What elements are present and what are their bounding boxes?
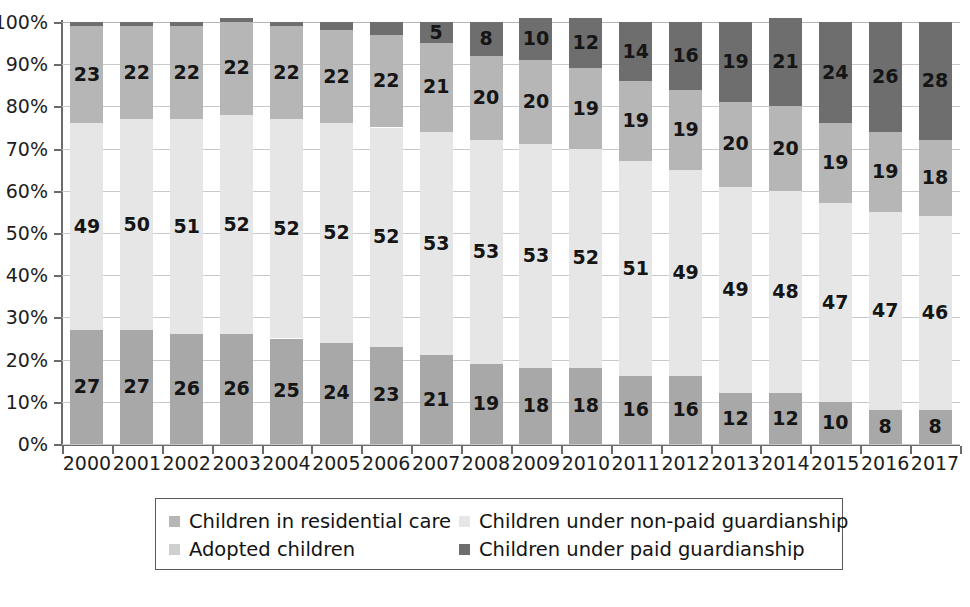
bar-stack-2014[interactable]: 12482021 — [769, 22, 802, 444]
bar-stack-2002[interactable]: 265122 — [170, 22, 203, 444]
legend-swatch-icon — [169, 516, 180, 527]
y-axis-label: 40% — [0, 266, 48, 285]
legend-item-3[interactable]: Children under paid guardianship — [459, 539, 829, 560]
bar-value-label: 22 — [320, 67, 353, 86]
bar-segment[interactable] — [270, 22, 303, 26]
bar-value-label: 8 — [919, 417, 952, 436]
y-axis-label: 70% — [0, 140, 48, 159]
gridline-0 — [62, 444, 960, 445]
bar-value-label: 20 — [769, 139, 802, 158]
x-axis-label-2004: 2004 — [259, 452, 315, 474]
bar-value-label: 18 — [919, 168, 952, 187]
bar-value-label: 49 — [719, 280, 752, 299]
y-tick-mark — [54, 64, 62, 66]
y-tick-mark — [54, 191, 62, 193]
bar-value-label: 20 — [719, 134, 752, 153]
bar-value-label: 21 — [420, 390, 453, 409]
x-axis-label-2016: 2016 — [857, 452, 913, 474]
bar-value-label: 53 — [470, 242, 503, 261]
bar-stack-2011[interactable]: 16511914 — [619, 22, 652, 444]
bar-value-label: 51 — [170, 217, 203, 236]
legend-item-2[interactable]: Adopted children — [169, 539, 459, 560]
bar-value-label: 16 — [669, 400, 702, 419]
bar-value-label: 28 — [919, 71, 952, 90]
bar-segment[interactable] — [320, 22, 353, 30]
bar-value-label: 47 — [869, 301, 902, 320]
bar-value-label: 52 — [220, 215, 253, 234]
bar-stack-2017[interactable]: 8461828 — [919, 22, 952, 444]
bar-value-label: 10 — [519, 29, 552, 48]
bar-series-layer: 2749232750222651222652222552222452222352… — [62, 22, 960, 444]
bar-value-label: 16 — [619, 400, 652, 419]
bar-segment[interactable] — [370, 22, 403, 35]
bar-value-label: 22 — [270, 63, 303, 82]
bar-stack-2008[interactable]: 1953208 — [470, 22, 503, 444]
bar-value-label: 20 — [470, 88, 503, 107]
bar-value-label: 12 — [719, 409, 752, 428]
bar-segment[interactable] — [120, 22, 153, 26]
y-axis-label: 10% — [0, 393, 48, 412]
bar-stack-2016[interactable]: 8471926 — [869, 22, 902, 444]
y-axis-label: 50% — [0, 224, 48, 243]
bar-stack-2003[interactable]: 265222 — [220, 22, 253, 444]
x-axis-label-2000: 2000 — [59, 452, 115, 474]
y-tick-mark — [54, 106, 62, 108]
bar-value-label: 53 — [519, 246, 552, 265]
bar-value-label: 27 — [70, 377, 103, 396]
bar-stack-2012[interactable]: 16491916 — [669, 22, 702, 444]
bar-stack-2005[interactable]: 245222 — [320, 22, 353, 444]
y-tick-mark — [54, 149, 62, 151]
bar-value-label: 52 — [270, 219, 303, 238]
bar-stack-2007[interactable]: 2153215 — [420, 22, 453, 444]
bar-value-label: 51 — [619, 259, 652, 278]
bar-stack-2013[interactable]: 12492019 — [719, 22, 752, 444]
bar-segment[interactable] — [70, 22, 103, 26]
y-tick-mark — [54, 317, 62, 319]
bar-value-label: 24 — [320, 383, 353, 402]
bar-value-label: 49 — [70, 217, 103, 236]
legend-item-0[interactable]: Children in residential care — [169, 511, 459, 532]
bar-value-label: 8 — [869, 417, 902, 436]
bar-value-label: 23 — [70, 65, 103, 84]
bar-value-label: 26 — [220, 379, 253, 398]
bar-value-label: 14 — [619, 42, 652, 61]
bar-value-label: 22 — [170, 63, 203, 82]
bar-value-label: 52 — [569, 248, 602, 267]
x-axis-label-2008: 2008 — [458, 452, 514, 474]
x-axis-label-2017: 2017 — [907, 452, 963, 474]
bar-value-label: 12 — [769, 409, 802, 428]
bar-value-label: 20 — [519, 92, 552, 111]
bar-value-label: 16 — [669, 46, 702, 65]
stacked-bar-chart: 100%90%80%70%60%50%40%30%20%10%0% 274923… — [0, 0, 970, 607]
y-axis-label: 80% — [0, 97, 48, 116]
bar-stack-2009[interactable]: 18532010 — [519, 22, 552, 444]
bar-value-label: 24 — [819, 63, 852, 82]
bar-value-label: 52 — [320, 223, 353, 242]
bar-value-label: 8 — [470, 29, 503, 48]
bar-value-label: 18 — [519, 396, 552, 415]
y-tick-mark — [54, 444, 62, 446]
bar-value-label: 19 — [669, 120, 702, 139]
y-axis-label: 20% — [0, 351, 48, 370]
bar-value-label: 21 — [420, 77, 453, 96]
bar-value-label: 22 — [120, 63, 153, 82]
bar-stack-2001[interactable]: 275022 — [120, 22, 153, 444]
bar-segment[interactable] — [170, 22, 203, 26]
legend-label: Adopted children — [189, 539, 355, 560]
legend-label: Children under non-paid guardianship — [479, 511, 848, 532]
legend-item-1[interactable]: Children under non-paid guardianship — [459, 511, 829, 532]
x-axis-label-2005: 2005 — [308, 452, 364, 474]
bar-stack-2006[interactable]: 235222 — [370, 22, 403, 444]
x-axis-label-2006: 2006 — [358, 452, 414, 474]
bar-stack-2000[interactable]: 274923 — [70, 22, 103, 444]
bar-value-label: 12 — [569, 33, 602, 52]
y-tick-mark — [54, 275, 62, 277]
bar-segment[interactable] — [220, 18, 253, 22]
bar-value-label: 49 — [669, 263, 702, 282]
y-axis-label: 60% — [0, 182, 48, 201]
bar-stack-2004[interactable]: 255222 — [270, 22, 303, 444]
y-axis-label: 100% — [0, 13, 48, 32]
bar-stack-2015[interactable]: 10471924 — [819, 22, 852, 444]
bar-stack-2010[interactable]: 18521912 — [569, 22, 602, 444]
x-axis-label-2003: 2003 — [209, 452, 265, 474]
